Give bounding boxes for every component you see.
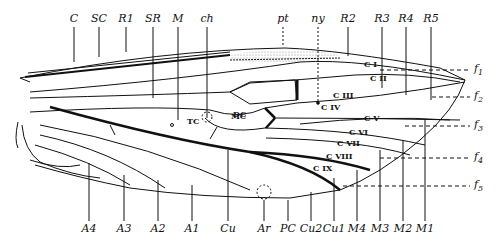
vein-label-pt: pt [277, 12, 288, 25]
vein-label-m3: M3 [371, 222, 389, 235]
vein-label-pc: PC [280, 222, 296, 235]
cell-label-tc: TC [187, 116, 199, 126]
vein-label-ar: Ar [257, 222, 270, 235]
cell-label-c-vi: C VI [349, 127, 368, 137]
vein-label-c: C [70, 12, 78, 25]
vein-label-m: M [172, 12, 183, 25]
wing-diagram [0, 0, 500, 248]
vein-label-sr: SR [145, 12, 161, 25]
vein-label-m2: M2 [394, 222, 412, 235]
vein-label-a4: A4 [82, 222, 97, 235]
vein-label-cu2: Cu2 [300, 222, 323, 235]
vein-label-ch: ch [200, 12, 213, 25]
cell-label-c-ii: C II [370, 73, 387, 83]
cell-label-mc: MC [231, 111, 246, 121]
field-label-f4: f4 [474, 150, 483, 165]
vein-label-m1: M1 [416, 222, 434, 235]
vein-label-r2: R2 [340, 12, 355, 25]
cell-label-c-iii: C III [333, 90, 353, 100]
vein-label-a3: A3 [117, 222, 132, 235]
cell-label-c-v: C V [364, 113, 379, 123]
vein-label-cu: Cu [220, 222, 236, 235]
cell-label-c-iv: C IV [321, 102, 340, 112]
field-label-f2: f2 [474, 89, 483, 104]
cell-label-c-i: C I [364, 59, 377, 69]
vein-label-r5: R5 [423, 12, 438, 25]
field-label-f3: f3 [474, 118, 483, 133]
vein-label-a2: A2 [151, 222, 166, 235]
cell-label-c-ix: C IX [313, 163, 332, 173]
vein-label-m4: M4 [348, 222, 366, 235]
vein-label-a1: A1 [185, 222, 200, 235]
vein-label-ny: ny [311, 12, 324, 25]
vein-label-r4: R4 [398, 12, 413, 25]
vein-label-sc: SC [91, 12, 107, 25]
vein-label-cu1: Cu1 [323, 222, 346, 235]
cell-label-c-viii: C VIII [326, 151, 353, 161]
field-label-f1: f1 [474, 62, 483, 77]
cell-label-c-vii: C VII [337, 138, 360, 148]
field-label-f5: f5 [474, 178, 483, 193]
vein-label-r1: R1 [118, 12, 133, 25]
vein-label-r3: R3 [374, 12, 389, 25]
